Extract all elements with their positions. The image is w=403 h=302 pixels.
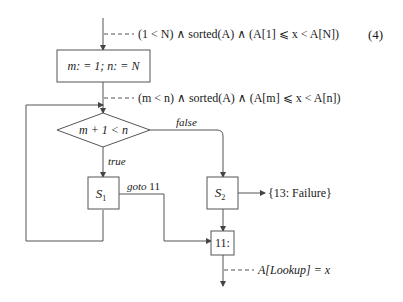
init-statement: m: = 1; n: = N — [68, 59, 141, 73]
goto-11-arrow — [119, 194, 211, 241]
postcondition-annotation: A[Lookup] = x — [257, 263, 331, 277]
false-label: false — [176, 116, 197, 128]
false-branch-arrow — [150, 130, 223, 177]
flowchart: (1 < N) ∧ sorted(A) ∧ (A[1] ⩽ x < A[N]) … — [0, 0, 403, 302]
label-11-text: 11: — [215, 236, 230, 250]
true-label: true — [108, 155, 126, 167]
goto-label: goto 11 — [127, 180, 160, 192]
invariant-annotation: (m < n) ∧ sorted(A) ∧ (A[m] ⩽ x < A[n]) — [138, 91, 340, 105]
s1-box — [88, 177, 119, 209]
equation-number: (4) — [368, 27, 383, 42]
condition-text: m + 1 < n — [79, 123, 128, 137]
failure-label: {13: Failure} — [268, 186, 332, 200]
precondition-annotation: (1 < N) ∧ sorted(A) ∧ (A[1] ⩽ x < A[N]) — [138, 27, 339, 41]
